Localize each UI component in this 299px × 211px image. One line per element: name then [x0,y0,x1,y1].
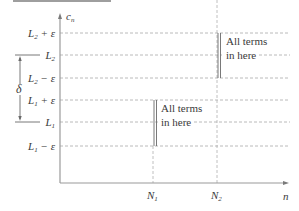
annotation-band-L2-line2: in here [226,49,256,61]
label-L1-plus-eps: L1 + ε [27,94,56,108]
delta-arrow-up-icon [18,56,21,61]
delta-label: δ [16,82,22,96]
tick-N2: N2 [210,189,222,203]
y-axis-label: cn [66,10,75,24]
label-L2-minus-eps: L2 − ε [27,72,56,86]
label-L1-minus-eps: L1 − ε [27,140,56,154]
x-axis-label: n [283,190,289,202]
convergence-diagram: cn n L2 + ε L2 L2 − ε L1 + ε L1 L1 − ε δ… [0,0,299,211]
annotation-band-L1: All terms in here [161,102,202,128]
label-L2-plus-eps: L2 + ε [27,27,56,41]
x-axis-arrow-icon [283,181,289,185]
header-bar [13,0,111,2]
label-L1: L1 [44,116,55,130]
label-L2: L2 [44,49,55,63]
y-axis-arrow-icon [58,13,62,19]
annotation-band-L2: All terms in here [226,35,267,61]
annotation-band-L1-line2: in here [161,116,191,128]
delta-arrow-down-icon [18,116,21,121]
band-brackets [154,33,221,146]
level-labels: L2 + ε L2 L2 − ε L1 + ε L1 L1 − ε [27,27,56,154]
annotation-band-L1-line1: All terms [161,102,202,114]
annotation-band-L2-line1: All terms [226,35,267,47]
n-lines [153,0,217,183]
tick-N1: N1 [146,189,158,203]
